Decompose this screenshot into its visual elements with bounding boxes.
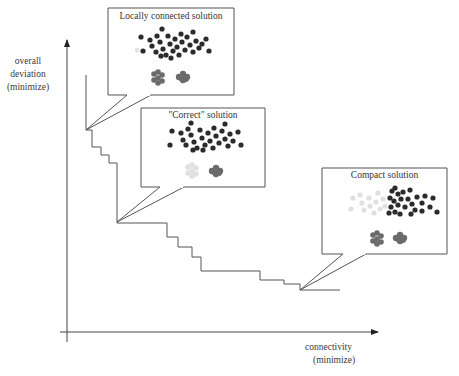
callout-correct (117, 108, 265, 222)
callout-title-correct: "Correct" solution (141, 110, 265, 120)
x-axis-label: connectivity (minimize) (305, 341, 355, 367)
y-axis-label: overall deviation (minimize) (0, 55, 56, 94)
y-axis-label-line: overall (0, 55, 56, 68)
callout-title-locally-connected: Locally connected solution (108, 11, 234, 21)
y-axis-label-line: deviation (0, 68, 56, 81)
callout-compact (300, 168, 447, 290)
callout-title-compact: Compact solution (322, 170, 447, 180)
x-axis-label-line: (minimize) (305, 354, 355, 367)
x-axis-label-line: connectivity (305, 341, 355, 354)
pareto-diagram (0, 0, 459, 376)
y-axis-label-line: (minimize) (0, 81, 56, 94)
